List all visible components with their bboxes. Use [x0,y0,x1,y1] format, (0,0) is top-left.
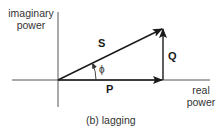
s-vector [58,29,162,80]
y-axis-label-line2: power [5,20,57,32]
x-axis-label: real power [182,85,220,108]
y-axis-label: imaginary power [5,8,57,31]
x-axis-label-line1: real [182,85,220,97]
q-vector-label: Q [168,50,177,62]
phi-angle-arc [93,64,97,81]
y-axis-label-line1: imaginary [5,8,57,20]
power-triangle-diagram: imaginary power real power S P Q ϕ (b) l… [0,0,220,139]
p-vector-label: P [106,83,113,95]
figure-caption: (b) lagging [86,115,136,127]
s-vector-label: S [98,37,105,49]
phi-angle-label: ϕ [99,64,105,75]
x-axis-label-line2: power [182,97,220,109]
